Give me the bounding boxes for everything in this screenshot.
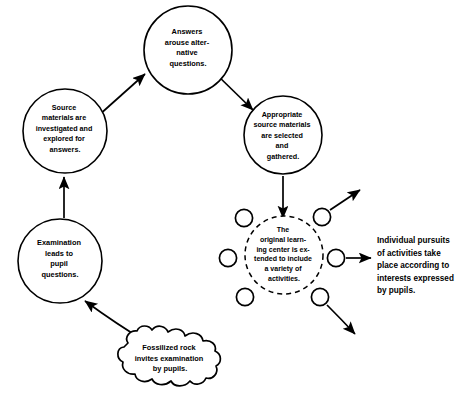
satellite-circle-bottom-right (311, 288, 328, 305)
node-source-materials: Source materials are investigated and ex… (23, 89, 107, 173)
flow-diagram: Answers arouse alter- native questions. … (0, 0, 467, 419)
side-note-individual-pursuits: Individual pursuits of activities take p… (377, 236, 456, 295)
diagram-canvas: Answers arouse alter- native questions. … (0, 0, 467, 419)
node-examination: Examination leads to pupil questions. (18, 219, 102, 303)
satellite-circle-top-left (235, 209, 252, 226)
arrow-satellite-lower-out (327, 305, 355, 334)
node-appropriate-materials: Appropriate source materials are selecte… (244, 96, 322, 174)
node-answers: Answers arouse alter- native questions. (144, 6, 232, 94)
node-learning-center: The original learn- ing center is ex- te… (245, 216, 323, 294)
node-fossilized-rock: Fossilized rock invites examination by p… (118, 326, 221, 386)
satellite-circle-bottom-left (236, 288, 253, 305)
satellite-circle-mid-left (219, 249, 236, 266)
satellite-circle-mid-right (327, 249, 344, 266)
arrow-satellite-upper-out (330, 190, 360, 210)
arrow-source-to-answers (98, 74, 145, 116)
satellite-circle-top-right (313, 208, 330, 225)
